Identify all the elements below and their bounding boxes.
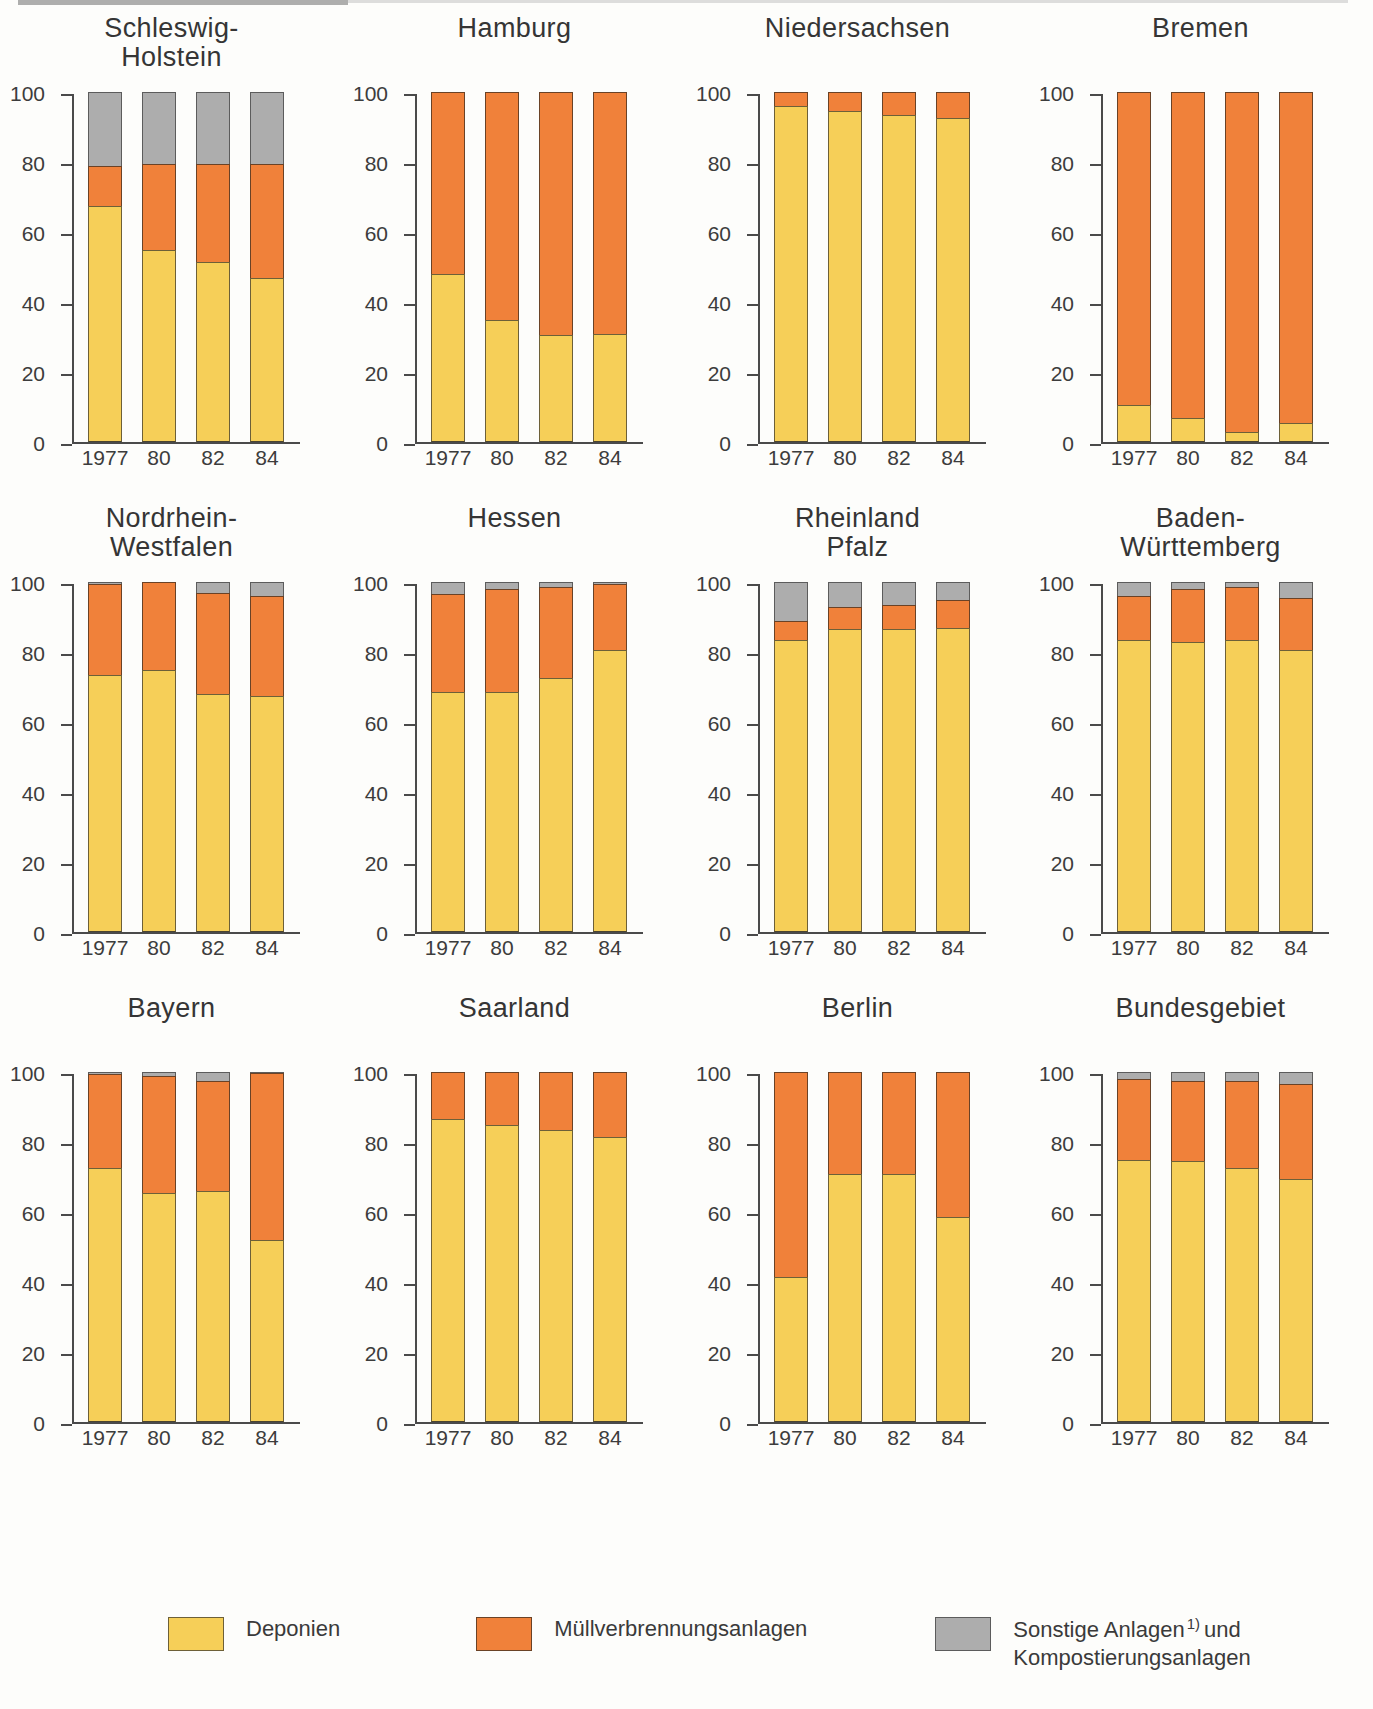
- bar-segment-dep[interactable]: [593, 1137, 627, 1422]
- bar-segment-mva[interactable]: [593, 584, 627, 651]
- stacked-bar[interactable]: [142, 582, 176, 932]
- bar-segment-mva[interactable]: [936, 1072, 970, 1217]
- stacked-bar[interactable]: [882, 92, 916, 442]
- stacked-bar[interactable]: [936, 1072, 970, 1422]
- bar-segment-dep[interactable]: [142, 670, 176, 933]
- bar-segment-mva[interactable]: [774, 92, 808, 106]
- stacked-bar[interactable]: [1171, 1072, 1205, 1422]
- bar-segment-mva[interactable]: [936, 92, 970, 118]
- stacked-bar[interactable]: [1117, 582, 1151, 932]
- stacked-bar[interactable]: [431, 582, 465, 932]
- stacked-bar[interactable]: [593, 92, 627, 442]
- stacked-bar[interactable]: [774, 92, 808, 442]
- bar-segment-dep[interactable]: [1279, 650, 1313, 932]
- stacked-bar[interactable]: [828, 92, 862, 442]
- stacked-bar[interactable]: [250, 582, 284, 932]
- bar-segment-dep[interactable]: [1171, 418, 1205, 443]
- bar-segment-mva[interactable]: [485, 589, 519, 692]
- stacked-bar[interactable]: [1225, 582, 1259, 932]
- bar-segment-mva[interactable]: [1279, 1084, 1313, 1179]
- bar-segment-dep[interactable]: [539, 1130, 573, 1422]
- bar-segment-son[interactable]: [485, 582, 519, 589]
- bar-segment-mva[interactable]: [142, 1076, 176, 1193]
- bar-segment-dep[interactable]: [88, 206, 122, 442]
- bar-segment-mva[interactable]: [1279, 92, 1313, 423]
- bar-segment-mva[interactable]: [936, 600, 970, 628]
- bar-segment-mva[interactable]: [196, 164, 230, 262]
- bar-segment-dep[interactable]: [196, 694, 230, 932]
- bar-segment-dep[interactable]: [774, 1277, 808, 1422]
- bar-segment-mva[interactable]: [1171, 1081, 1205, 1162]
- stacked-bar[interactable]: [828, 1072, 862, 1422]
- bar-segment-dep[interactable]: [539, 678, 573, 932]
- bar-segment-son[interactable]: [250, 92, 284, 164]
- stacked-bar[interactable]: [485, 1072, 519, 1422]
- bar-segment-dep[interactable]: [1225, 1168, 1259, 1422]
- bar-segment-dep[interactable]: [196, 262, 230, 442]
- bar-segment-mva[interactable]: [88, 584, 122, 675]
- stacked-bar[interactable]: [196, 582, 230, 932]
- stacked-bar[interactable]: [1279, 1072, 1313, 1422]
- bar-segment-dep[interactable]: [485, 692, 519, 932]
- bar-segment-mva[interactable]: [882, 92, 916, 115]
- bar-segment-mva[interactable]: [250, 1073, 284, 1240]
- stacked-bar[interactable]: [485, 582, 519, 932]
- bar-segment-son[interactable]: [196, 582, 230, 593]
- bar-segment-mva[interactable]: [431, 594, 465, 692]
- bar-segment-mva[interactable]: [882, 605, 916, 630]
- bar-segment-mva[interactable]: [485, 1072, 519, 1125]
- bar-segment-mva[interactable]: [88, 166, 122, 206]
- stacked-bar[interactable]: [196, 1072, 230, 1422]
- bar-segment-son[interactable]: [88, 92, 122, 166]
- bar-segment-dep[interactable]: [1171, 1161, 1205, 1422]
- bar-segment-dep[interactable]: [1225, 640, 1259, 932]
- bar-segment-mva[interactable]: [1117, 1079, 1151, 1160]
- bar-segment-mva[interactable]: [539, 1072, 573, 1130]
- bar-segment-son[interactable]: [196, 1072, 230, 1081]
- stacked-bar[interactable]: [828, 582, 862, 932]
- bar-segment-mva[interactable]: [539, 92, 573, 335]
- stacked-bar[interactable]: [774, 582, 808, 932]
- bar-segment-dep[interactable]: [774, 640, 808, 932]
- bar-segment-mva[interactable]: [774, 621, 808, 640]
- bar-segment-dep[interactable]: [774, 106, 808, 442]
- bar-segment-mva[interactable]: [196, 593, 230, 695]
- bar-segment-dep[interactable]: [882, 1174, 916, 1423]
- stacked-bar[interactable]: [539, 582, 573, 932]
- stacked-bar[interactable]: [1117, 1072, 1151, 1422]
- bar-segment-mva[interactable]: [431, 92, 465, 274]
- bar-segment-dep[interactable]: [1117, 1160, 1151, 1423]
- bar-segment-mva[interactable]: [593, 1072, 627, 1137]
- bar-segment-dep[interactable]: [431, 1119, 465, 1422]
- bar-segment-dep[interactable]: [593, 334, 627, 443]
- bar-segment-mva[interactable]: [196, 1081, 230, 1191]
- bar-segment-dep[interactable]: [431, 692, 465, 932]
- stacked-bar[interactable]: [539, 92, 573, 442]
- stacked-bar[interactable]: [593, 1072, 627, 1422]
- stacked-bar[interactable]: [936, 92, 970, 442]
- stacked-bar[interactable]: [250, 92, 284, 442]
- bar-segment-mva[interactable]: [1117, 596, 1151, 640]
- bar-segment-mva[interactable]: [1171, 589, 1205, 642]
- stacked-bar[interactable]: [485, 92, 519, 442]
- bar-segment-mva[interactable]: [142, 582, 176, 670]
- bar-segment-dep[interactable]: [936, 628, 970, 933]
- stacked-bar[interactable]: [882, 582, 916, 932]
- stacked-bar[interactable]: [142, 1072, 176, 1422]
- stacked-bar[interactable]: [1225, 1072, 1259, 1422]
- bar-segment-dep[interactable]: [828, 629, 862, 932]
- bar-segment-dep[interactable]: [1279, 1179, 1313, 1422]
- bar-segment-mva[interactable]: [828, 1072, 862, 1174]
- bar-segment-dep[interactable]: [1171, 642, 1205, 933]
- bar-segment-mva[interactable]: [250, 164, 284, 278]
- stacked-bar[interactable]: [1171, 92, 1205, 442]
- bar-segment-mva[interactable]: [250, 596, 284, 696]
- stacked-bar[interactable]: [882, 1072, 916, 1422]
- bar-segment-son[interactable]: [1225, 1072, 1259, 1081]
- bar-segment-mva[interactable]: [828, 92, 862, 111]
- bar-segment-mva[interactable]: [1225, 587, 1259, 640]
- bar-segment-mva[interactable]: [539, 587, 573, 678]
- bar-segment-son[interactable]: [1171, 1072, 1205, 1081]
- bar-segment-dep[interactable]: [936, 118, 970, 442]
- stacked-bar[interactable]: [431, 1072, 465, 1422]
